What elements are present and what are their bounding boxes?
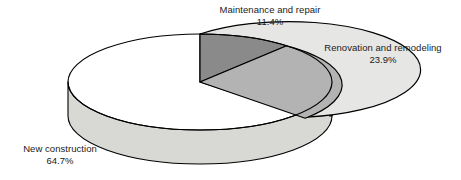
pie-label-new-construction-name: New construction [8, 143, 112, 155]
pie-label-maintenance: Maintenance and repair 11.4% [214, 4, 326, 27]
pie-label-new-construction-percent: 64.7% [8, 155, 112, 167]
pie-label-new-construction: New construction 64.7% [8, 143, 112, 166]
pie-label-maintenance-name: Maintenance and repair [214, 4, 326, 16]
pie-label-renovation-name: Renovation and remodeling [318, 42, 448, 54]
pie-label-renovation-percent: 23.9% [318, 54, 448, 66]
pie-chart-figure: Maintenance and repair 11.4% Renovation … [0, 0, 461, 180]
pie-label-renovation: Renovation and remodeling 23.9% [318, 42, 448, 65]
pie-label-maintenance-percent: 11.4% [214, 16, 326, 28]
pie-top-face [68, 22, 421, 130]
